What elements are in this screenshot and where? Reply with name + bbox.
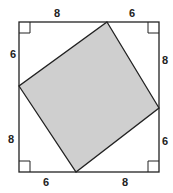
label-top-right: 6 (129, 7, 135, 19)
label-left-top: 6 (10, 48, 16, 60)
label-left-bottom: 8 (8, 133, 14, 145)
label-bottom-left: 6 (43, 176, 49, 188)
geometry-diagram: 8 6 6 8 8 6 6 8 (0, 0, 173, 193)
label-top-left: 8 (54, 7, 60, 19)
label-bottom-right: 8 (122, 176, 128, 188)
label-right-bottom: 6 (162, 135, 168, 147)
label-right-top: 8 (162, 54, 168, 66)
